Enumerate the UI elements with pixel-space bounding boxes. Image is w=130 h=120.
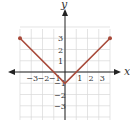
endpoint-dot — [108, 36, 112, 40]
y-tick-label: −1 — [54, 79, 66, 88]
y-tick-label: 1 — [58, 57, 63, 66]
x-tick-label: −2 — [38, 74, 50, 83]
x-axis-label: x — [124, 65, 130, 78]
x-tick-label: −3 — [26, 74, 38, 83]
y-tick-label: 3 — [58, 34, 63, 43]
y-tick-label: 2 — [58, 46, 63, 55]
endpoint-dot — [18, 36, 22, 40]
y-tick-label: −3 — [54, 102, 66, 111]
axes: x y — [8, 0, 130, 120]
graph: x y −3−2−1123321−1−2−3 — [0, 0, 130, 120]
y-tick-label: −2 — [54, 91, 66, 100]
x-axis-right-arrow-icon — [114, 69, 121, 75]
y-axis-label: y — [60, 0, 68, 11]
x-axis-left-arrow-icon — [8, 69, 15, 75]
x-tick-label: 1 — [77, 74, 82, 83]
x-tick-label: 2 — [89, 74, 94, 83]
x-tick-label: 3 — [100, 74, 105, 83]
